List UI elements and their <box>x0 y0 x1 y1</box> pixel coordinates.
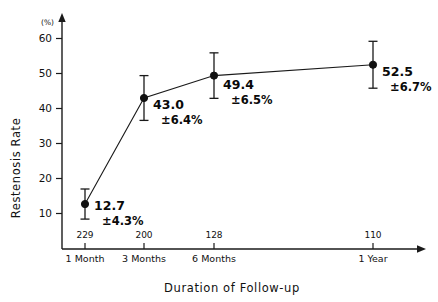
x-tick-group: 2291 Month2003 Months1286 Months1101 Yea… <box>66 230 388 264</box>
data-point-value-label: 49.4 <box>223 77 254 92</box>
y-tick-label: 50 <box>39 67 52 79</box>
y-axis-unit-label: (%) <box>41 18 54 27</box>
data-point-marker[interactable] <box>140 94 147 101</box>
x-tick-label: 6 Months <box>192 253 236 264</box>
chart-figure: (%) 102030405060 2291 Month2003 Months12… <box>0 0 438 302</box>
x-tick-label: 3 Months <box>122 253 166 264</box>
y-tick-label: 60 <box>39 32 52 44</box>
y-axis-arrowhead <box>58 13 65 22</box>
y-tick-label: 40 <box>39 102 52 114</box>
data-point-value-label: 12.7 <box>94 198 125 213</box>
y-tick-group: 102030405060 <box>39 32 62 219</box>
x-axis <box>62 245 426 252</box>
sample-size-label: 200 <box>135 230 152 240</box>
data-point-value-label: 43.0 <box>153 97 184 112</box>
data-series-layer: 12.7±4.3%43.0±6.4%49.4±6.5%52.5±6.7% <box>81 41 433 228</box>
x-tick-label: 1 Year <box>358 253 387 264</box>
y-tick-label: 10 <box>39 207 52 219</box>
sample-size-label: 128 <box>205 230 222 240</box>
data-point-marker[interactable] <box>210 72 217 79</box>
data-point-marker[interactable] <box>81 200 88 207</box>
data-point-error-label: ±6.5% <box>231 93 273 107</box>
x-axis-title: Duration of Follow-up <box>164 281 300 295</box>
x-tick-label: 1 Month <box>66 253 105 264</box>
restenosis-rate-line-chart: (%) 102030405060 2291 Month2003 Months12… <box>0 0 438 302</box>
data-point-marker[interactable] <box>369 61 376 68</box>
y-tick-label: 30 <box>39 137 52 149</box>
data-point-error-label: ±6.4% <box>161 113 203 127</box>
data-point-error-label: ±4.3% <box>102 214 144 228</box>
y-axis-title: Restenosis Rate <box>9 118 23 219</box>
data-point-value-label: 52.5 <box>382 64 413 79</box>
y-tick-label: 20 <box>39 172 52 184</box>
x-axis-arrowhead <box>417 245 426 252</box>
sample-size-label: 110 <box>364 230 381 240</box>
data-point-error-label: ±6.7% <box>390 80 432 94</box>
sample-size-label: 229 <box>76 230 93 240</box>
